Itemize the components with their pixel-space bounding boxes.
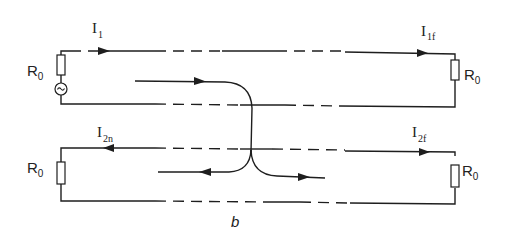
line1 [55,47,459,107]
coupling-path [135,77,325,181]
coupling-path-near-branch [158,150,251,172]
coupling-in-arrow-icon [194,77,206,85]
line2-top-dash-b [272,149,345,150]
line2-right-resistor [451,165,459,187]
coupling-far-arrow-icon [298,173,310,181]
line2-bottom-dash-b [300,202,350,203]
circuit-diagram: I1 I1f R0 R0 I2n I2f R0 R0 b [0,0,514,239]
line2 [57,144,459,204]
panel-label: b [231,213,239,230]
label-r0-line1-left: R0 [27,62,44,82]
line2-top-solid-c [345,151,455,156]
line1-near-arrow-icon [98,47,110,55]
line1-bottom-dash-a [155,104,240,105]
line2-top-dash-a [155,148,240,149]
line1-far-arrow-icon [417,49,428,57]
diagram-canvas: I1 I1f R0 R0 I2n I2f R0 R0 b [0,0,514,239]
label-r0-line2-right: R0 [462,162,479,182]
line2-bottom-solid-a [61,184,155,201]
line1-left-resistor [57,55,65,75]
label-i1: I1 [92,20,103,40]
label-r0-line1-right: R0 [464,66,481,86]
line2-bottom-solid-c [350,188,455,204]
line2-near-arrow-icon [103,144,114,152]
label-i1f: I1f [421,23,436,42]
coupling-path-far-branch [251,150,325,178]
label-i2f: I2f [412,124,427,144]
coupling-near-arrow-icon [199,168,211,176]
coupling-path-incoming [135,81,252,152]
line1-bottom-solid-c [340,80,455,107]
line2-top-solid-a [61,148,155,162]
line2-bottom-dash-a [155,201,265,202]
line1-bottom-solid-a [61,95,155,104]
line2-far-arrow-icon [419,148,430,156]
label-i2n: I2n [97,124,113,144]
line1-top-solid-c [345,52,455,60]
line1-right-resistor [451,60,459,80]
line1-bottom-dash-b [285,105,340,106]
label-r0-line2-left: R0 [27,159,44,179]
line2-left-resistor [57,162,65,184]
